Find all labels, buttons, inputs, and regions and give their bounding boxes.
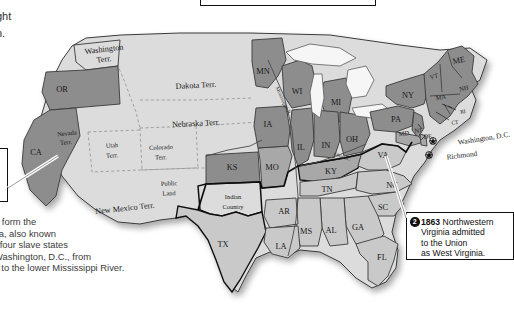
- state-label-IN: IN: [322, 141, 331, 150]
- callout-wv-line2: Virginia admitted: [421, 227, 508, 237]
- callout-top-legend: of 1861 USA or CSA: [200, 0, 376, 6]
- callout-wv-line3: to the Union: [421, 238, 508, 248]
- state-label-MO: MO: [265, 163, 279, 172]
- state-area-OR: [42, 66, 120, 110]
- state-label-TX: TX: [217, 240, 228, 249]
- callout-top-right-text: USA or CSA: [290, 0, 367, 1]
- callout-marker-2: 2: [410, 217, 420, 227]
- state-label-AL: AL: [325, 226, 336, 235]
- state-label-MN: MN: [256, 67, 270, 76]
- state-label-AR: AR: [278, 207, 290, 216]
- state-label-NY: NY: [402, 91, 414, 100]
- callout-wv-line4: as West Virginia.: [421, 248, 508, 258]
- state-label-PA: PA: [391, 115, 401, 124]
- state-label-SC: SC: [378, 203, 389, 212]
- label-territory-public-land-l2: Land: [162, 189, 176, 197]
- label-territory-public-land-l1: Public: [161, 179, 178, 187]
- label-territory-utah-l1: Utah: [105, 141, 119, 149]
- city-label-washington-dc: Washington, D.C.: [457, 130, 510, 147]
- callout-wv-line1: Northwestern: [443, 217, 494, 227]
- state-area-MS: [296, 198, 322, 246]
- callout-wv-year: 1863: [421, 217, 440, 227]
- state-label-KS: KS: [227, 163, 238, 172]
- callout-nevada-line1: ada: [0, 152, 2, 164]
- label-territory-colorado-l2: Terr.: [155, 153, 168, 161]
- state-label-TN: TN: [321, 185, 332, 194]
- state-label-CA: CA: [30, 148, 42, 157]
- callout-nevada-line2: o: [0, 164, 2, 176]
- label-territory-colorado-l1: Colorado: [149, 143, 173, 151]
- state-label-LA: LA: [275, 242, 286, 251]
- state-label-KY: KY: [325, 167, 337, 176]
- state-label-FL: FL: [377, 253, 387, 262]
- label-territory-utah-l2: Terr.: [106, 151, 119, 159]
- state-label-IL: IL: [297, 143, 305, 152]
- state-label-CT: CT: [451, 119, 459, 126]
- state-label-VA: VA: [377, 151, 388, 160]
- state-label-MD: MD: [398, 129, 410, 137]
- state-label-RI: RI: [460, 108, 467, 115]
- label-territory-washington-l2: Terr.: [96, 54, 112, 65]
- city-label-richmond: Richmond: [446, 149, 478, 162]
- state-label-WI: WI: [292, 87, 303, 96]
- label-territory-indian-country-l1: Indian: [225, 193, 242, 200]
- state-label-MS: MS: [300, 227, 312, 236]
- callout-top-left-text: of 1861: [209, 0, 286, 1]
- page-text-fragment-top-left: ght n.: [0, 8, 11, 42]
- state-label-OR: OR: [56, 85, 68, 94]
- state-label-OH: OH: [346, 135, 358, 144]
- state-area-TX: [176, 206, 266, 292]
- callout-west-virginia: 2 1863 Northwestern Virginia admitted to…: [406, 212, 514, 260]
- page-text-fragment-bottom-left: o form the ca, also known r four slave s…: [0, 216, 124, 274]
- state-label-NC: NC: [386, 181, 398, 190]
- state-label-GA: GA: [352, 223, 364, 232]
- state-label-IA: IA: [264, 120, 273, 129]
- label-territory-indian-country-l2: Country: [223, 203, 245, 210]
- callout-nevada: ada o: [0, 148, 8, 202]
- label-territory-nevada-l2: Terr.: [60, 138, 73, 146]
- state-label-MI: MI: [331, 98, 341, 107]
